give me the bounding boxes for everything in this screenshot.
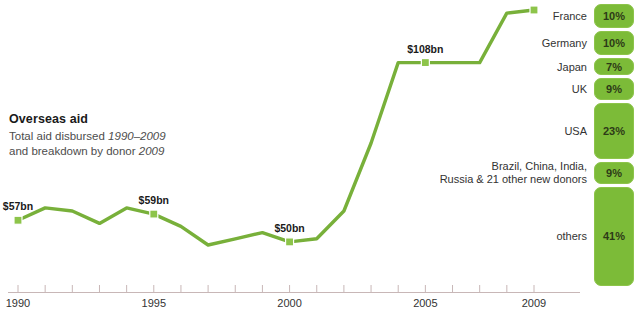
legend-bar[interactable]: 7% [594, 58, 634, 75]
legend-percentage: 9% [606, 167, 622, 179]
legend-label: Brazil, China, India, Russia & 21 other … [440, 160, 594, 185]
data-point-labels: $57bn$59bn$50bn$108bn [3, 43, 444, 234]
data-point-marker [286, 238, 294, 246]
legend-label: Germany [542, 37, 594, 50]
legend-label: UK [572, 83, 594, 96]
legend-row[interactable]: others41% [390, 187, 634, 286]
legend-percentage: 10% [603, 37, 625, 49]
x-axis-tick-label: 1995 [142, 297, 166, 309]
legend-percentage: 7% [606, 61, 622, 73]
legend-bar[interactable]: 9% [594, 78, 634, 100]
legend-percentage: 41% [603, 230, 625, 242]
legend-percentage: 10% [603, 10, 625, 22]
legend-percentage: 9% [606, 83, 622, 95]
legend-label: France [553, 10, 594, 23]
data-point-marker [150, 210, 158, 218]
legend-label: Japan [557, 61, 594, 74]
legend-bar[interactable]: 10% [594, 31, 634, 55]
legend-row[interactable]: France10% [390, 4, 634, 28]
data-point-label: $50bn [274, 222, 304, 234]
legend-row[interactable]: Japan7% [390, 58, 634, 75]
data-point-marker [14, 216, 22, 224]
legend-row[interactable]: USA23% [390, 103, 634, 159]
legend-bar[interactable]: 41% [594, 187, 634, 286]
legend-percentage: 23% [603, 125, 625, 137]
data-point-label: $59bn [139, 194, 169, 206]
legend-bar[interactable]: 9% [594, 162, 634, 184]
data-point-label: $57bn [3, 200, 33, 212]
chart-figure: Overseas aid Total aid disbursed 1990–20… [0, 0, 634, 320]
legend-row[interactable]: Germany10% [390, 31, 634, 55]
legend-row[interactable]: UK9% [390, 78, 634, 100]
legend-label: others [556, 230, 594, 243]
legend-bar[interactable]: 23% [594, 103, 634, 159]
x-axis-tick-label: 1990 [6, 297, 30, 309]
x-axis-tick-label: 2000 [277, 297, 301, 309]
legend-row[interactable]: Brazil, China, India, Russia & 21 other … [390, 162, 634, 184]
legend-bar[interactable]: 10% [594, 4, 634, 28]
donor-breakdown-legend: France10%Germany10%Japan7%UK9%USA23%Braz… [390, 0, 634, 300]
legend-label: USA [564, 125, 594, 138]
